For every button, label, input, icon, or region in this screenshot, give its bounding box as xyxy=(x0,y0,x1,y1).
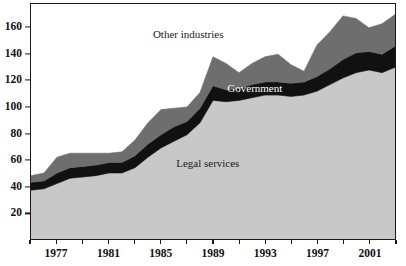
y-tick-label: 100 xyxy=(5,101,22,113)
y-tick-label: 120 xyxy=(5,74,22,86)
x-tick-mark xyxy=(265,240,266,244)
x-tick-mark xyxy=(239,240,240,244)
y-tick-label: 60 xyxy=(11,154,23,166)
x-tick-mark xyxy=(160,240,161,244)
x-tick-mark xyxy=(343,240,344,244)
x-tick-label: 1997 xyxy=(306,247,329,259)
stacked-area-chart: 20406080100120140160 Other industriesGov… xyxy=(0,0,406,266)
x-tick-mark xyxy=(56,240,57,244)
x-tick-label: 1977 xyxy=(45,247,68,259)
x-tick-label: 1989 xyxy=(202,247,225,259)
x-tick-mark xyxy=(134,240,135,244)
y-tick-label: 160 xyxy=(5,21,22,33)
x-tick-mark xyxy=(108,240,109,244)
x-tick-mark xyxy=(29,240,30,244)
y-tick-label: 20 xyxy=(11,208,23,220)
y-tick-label: 140 xyxy=(5,48,22,60)
x-tick-mark xyxy=(369,240,370,244)
x-tick-label: 1985 xyxy=(149,247,172,259)
x-tick-mark xyxy=(186,240,187,244)
x-tick-mark xyxy=(82,240,83,244)
plot-svg xyxy=(31,4,395,239)
x-tick-mark xyxy=(212,240,213,244)
x-tick-label: 1981 xyxy=(97,247,120,259)
x-tick-label: 2001 xyxy=(358,247,381,259)
x-tick-label: 1993 xyxy=(254,247,277,259)
y-tick-label: 80 xyxy=(11,128,23,140)
plot-area xyxy=(30,3,396,240)
x-tick-mark xyxy=(291,240,292,244)
y-axis: 20406080100120140160 xyxy=(0,0,30,266)
y-tick-label: 40 xyxy=(11,181,23,193)
x-tick-mark xyxy=(395,240,396,244)
x-axis: 1977198119851989199319972001 xyxy=(0,240,406,266)
x-tick-mark xyxy=(317,240,318,244)
